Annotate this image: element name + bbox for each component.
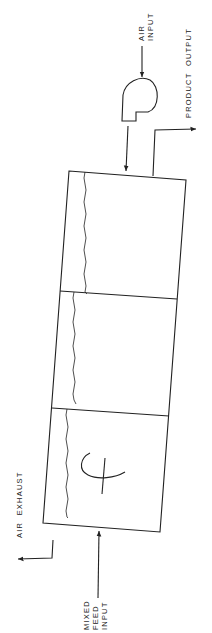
bed-surface-line-2 xyxy=(73,292,76,404)
product-output-arrow xyxy=(153,129,196,176)
feed-input-arrow xyxy=(98,531,99,598)
process-diagram xyxy=(0,0,212,633)
vessel-outline xyxy=(43,171,186,532)
product-output-label: PRODUCT OUTPUT xyxy=(184,28,193,118)
air-exhaust-label: AIR EXHAUST xyxy=(15,472,24,539)
blower-to-vessel-arrow xyxy=(126,126,128,171)
mixed-feed-input-label: MIXED FEED INPUT xyxy=(82,600,109,630)
air-input-label: AIR INPUT xyxy=(137,13,155,42)
bed-surface-line-3 xyxy=(66,409,68,518)
chamber-divider-2 xyxy=(52,408,169,416)
bed-surface-line-1 xyxy=(84,172,87,294)
blower-icon xyxy=(122,78,157,121)
chamber-divider-1 xyxy=(60,291,177,299)
air-exhaust-arrow xyxy=(18,540,53,559)
